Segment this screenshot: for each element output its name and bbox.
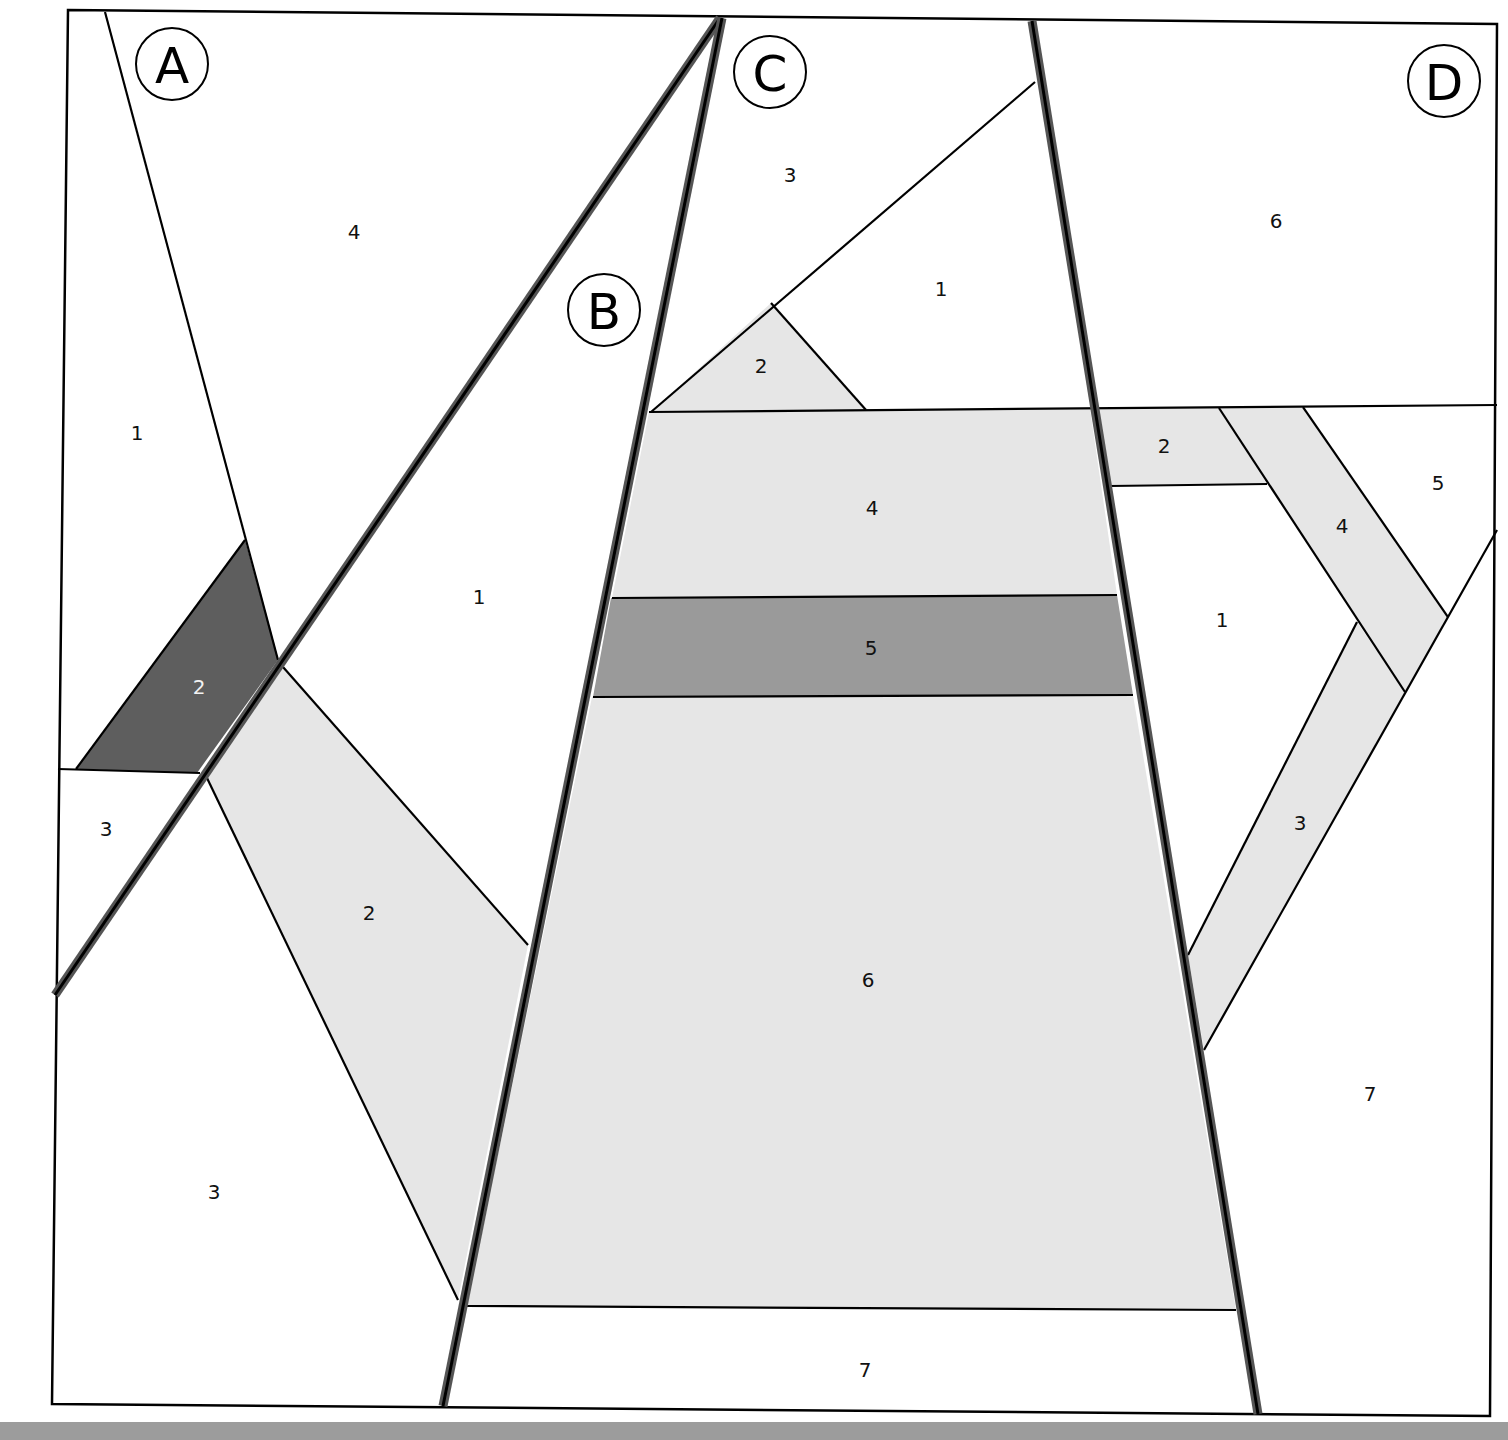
- piece-number-d3: 3: [1294, 811, 1307, 835]
- svg-text:A: A: [155, 37, 189, 95]
- section-label-b: B: [568, 274, 640, 346]
- section-c-piece-5: [593, 595, 1133, 697]
- piece-number-c4: 4: [866, 496, 879, 520]
- bottom-edge-strip: [0, 1422, 1508, 1440]
- piece-number-d7: 7: [1364, 1082, 1377, 1106]
- piece-number-c3: 3: [784, 163, 797, 187]
- piece-number-a2: 2: [193, 675, 206, 699]
- piece-number-b3: 3: [208, 1180, 221, 1204]
- piece-number-b2: 2: [363, 901, 376, 925]
- section-label-d: D: [1408, 45, 1480, 117]
- piece-number-c5: 5: [865, 636, 878, 660]
- svg-text:C: C: [753, 45, 788, 103]
- piece-number-a1: 1: [131, 421, 144, 445]
- piece-number-c6: 6: [862, 968, 875, 992]
- piece-number-a4: 4: [348, 220, 361, 244]
- quilt-pattern-diagram: A B C D 1 2 3 4 1 2 3 1 2 3 4 5 6 7 1 2 …: [0, 0, 1508, 1440]
- piece-number-d5: 5: [1432, 471, 1445, 495]
- section-label-a: A: [136, 28, 208, 100]
- piece-number-c7: 7: [859, 1358, 872, 1382]
- piece-number-a3: 3: [100, 817, 113, 841]
- piece-number-d4: 4: [1336, 514, 1349, 538]
- piece-number-c1: 1: [935, 277, 948, 301]
- piece-number-b1: 1: [473, 585, 486, 609]
- piece-number-c2: 2: [755, 354, 768, 378]
- section-label-c: C: [734, 36, 806, 108]
- svg-text:B: B: [587, 283, 621, 341]
- piece-number-d1: 1: [1216, 608, 1229, 632]
- piece-number-d2: 2: [1158, 434, 1171, 458]
- piece-number-d6: 6: [1270, 209, 1283, 233]
- section-c-piece-6: [467, 695, 1236, 1310]
- svg-text:D: D: [1425, 54, 1464, 112]
- section-c-piece-4: [612, 409, 1117, 598]
